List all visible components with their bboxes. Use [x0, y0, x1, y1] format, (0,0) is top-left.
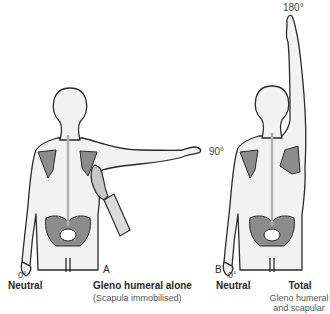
panel-b-subtitle-line2: and scapular	[268, 303, 330, 313]
panel-b-subtitle-line1: Gleno humeral	[268, 293, 330, 303]
panel-b-start-label: Neutral	[216, 281, 250, 291]
panel-b-title: Total	[272, 281, 328, 291]
panel-a-start-label: Neutral	[8, 281, 42, 291]
panel-a-end-angle: 90°	[209, 147, 224, 157]
panel-a-start-angle: 0°	[18, 270, 27, 280]
panel-a-subtitle: (Scapula immobilised)	[93, 293, 182, 303]
panel-b-letter: B	[215, 265, 222, 275]
panel-a-letter: A	[103, 265, 110, 275]
panel-b-end-angle: 180°	[283, 3, 304, 13]
shoulder-abduction-diagram	[0, 0, 330, 314]
panel-a-title: Gleno humeral alone	[93, 281, 192, 291]
panel-b-start-angle: 0°	[228, 270, 237, 280]
figure-a-body	[21, 88, 200, 276]
